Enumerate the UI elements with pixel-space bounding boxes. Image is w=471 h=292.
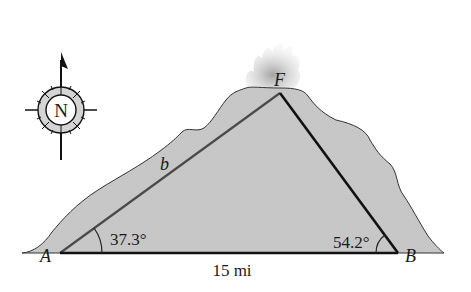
angle-label-a: 37.3° bbox=[110, 230, 147, 249]
compass-rose-icon: N bbox=[25, 52, 97, 160]
vertex-label-b: B bbox=[405, 246, 416, 266]
vertex-label-f: F bbox=[273, 70, 286, 90]
vertex-label-a: A bbox=[39, 246, 52, 266]
volcano-smoke bbox=[246, 43, 300, 88]
compass-north-label: N bbox=[54, 100, 68, 121]
diagram-canvas: N F A B b 15 mi 37.3° 54.2° bbox=[0, 0, 471, 292]
angle-label-b: 54.2° bbox=[333, 233, 370, 252]
side-label-ab: 15 mi bbox=[212, 261, 251, 280]
side-label-b: b bbox=[160, 154, 169, 174]
